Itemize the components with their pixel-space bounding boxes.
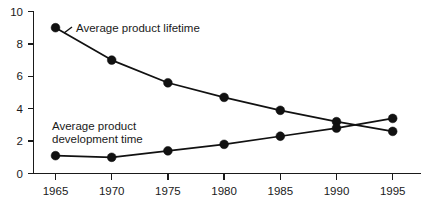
data-point bbox=[388, 127, 397, 136]
x-tick-label-1965: 1965 bbox=[43, 185, 69, 197]
x-tick-label-1970: 1970 bbox=[99, 185, 125, 197]
x-tick-label-1995: 1995 bbox=[380, 185, 406, 197]
data-point bbox=[107, 56, 116, 65]
data-point bbox=[220, 140, 229, 149]
development-annotation-line1: Average product bbox=[52, 120, 137, 132]
chart-container: 0 2 4 6 8 10 1965 1970 1975 1980 1985 19… bbox=[0, 0, 435, 203]
data-point bbox=[388, 114, 397, 123]
data-point bbox=[164, 146, 173, 155]
data-point bbox=[332, 124, 341, 133]
x-tick-label-1980: 1980 bbox=[211, 185, 237, 197]
data-point bbox=[276, 132, 285, 141]
development-annotation-line2: development time bbox=[52, 133, 143, 145]
y-tick-label-0: 0 bbox=[17, 168, 23, 180]
y-tick-label-6: 6 bbox=[17, 70, 23, 82]
data-point bbox=[164, 78, 173, 87]
x-tick-label-1975: 1975 bbox=[155, 185, 181, 197]
data-point bbox=[51, 23, 60, 32]
data-point bbox=[51, 151, 60, 160]
chart-background bbox=[0, 0, 435, 203]
data-point bbox=[220, 93, 229, 102]
y-tick-label-10: 10 bbox=[10, 6, 23, 18]
y-tick-label-2: 2 bbox=[17, 135, 23, 147]
y-tick-label-8: 8 bbox=[17, 38, 23, 50]
data-point bbox=[107, 153, 116, 162]
x-tick-label-1985: 1985 bbox=[268, 185, 294, 197]
x-tick-label-1990: 1990 bbox=[324, 185, 350, 197]
data-point bbox=[276, 106, 285, 115]
lifetime-annotation: Average product lifetime bbox=[76, 22, 200, 34]
line-chart: 0 2 4 6 8 10 1965 1970 1975 1980 1985 19… bbox=[0, 0, 435, 203]
y-tick-label-4: 4 bbox=[17, 103, 24, 115]
